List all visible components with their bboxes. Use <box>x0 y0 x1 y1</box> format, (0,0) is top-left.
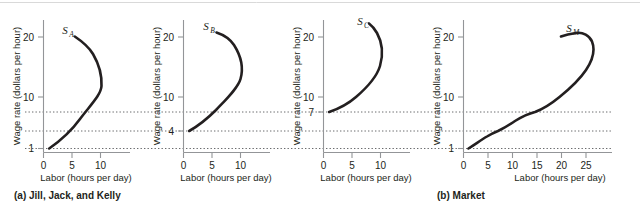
x-tick-label-kelly-10: 10 <box>375 160 387 171</box>
x-axis-title-jill: Labor (hours per day) <box>40 172 131 183</box>
x-tick-label-market-10: 10 <box>507 160 519 171</box>
y-tick-label-kelly-7: 7 <box>308 107 314 118</box>
y-tick-label-market-20: 20 <box>443 32 455 43</box>
y-axis-title-jack: Wage rate (dollars per hour) <box>151 27 162 145</box>
x-tick-label-market-20: 20 <box>556 160 568 171</box>
y-tick-label-jill-10: 10 <box>23 92 35 103</box>
x-tick-label-jill-0: 0 <box>41 160 47 171</box>
x-tick-label-market-25: 25 <box>580 160 592 171</box>
x-tick-label-market-5: 5 <box>485 160 491 171</box>
curve-label-sub-market: M <box>572 28 580 37</box>
y-tick-label-jill-1: 1 <box>28 143 34 154</box>
caption-panel-b: (b) Market <box>437 190 485 201</box>
y-tick-label-kelly-10: 10 <box>303 92 315 103</box>
x-tick-label-jill-5: 5 <box>69 160 75 171</box>
curve-label-market: S <box>566 22 572 34</box>
y-tick-label-jack-4: 4 <box>168 126 174 137</box>
x-tick-label-market-15: 15 <box>531 160 543 171</box>
x-tick-label-jack-5: 5 <box>209 160 215 171</box>
y-tick-label-jack-20: 20 <box>163 32 175 43</box>
y-tick-label-jack-10: 10 <box>163 92 175 103</box>
x-tick-label-market-0: 0 <box>461 160 467 171</box>
y-axis-title-jill: Wage rate (dollars per hour) <box>11 27 22 145</box>
x-tick-label-jack-10: 10 <box>235 160 247 171</box>
y-tick-label-kelly-20: 20 <box>303 32 315 43</box>
x-axis-title-market: Labor (hours per day) <box>514 172 605 183</box>
x-axis-title-jack: Labor (hours per day) <box>180 172 271 183</box>
x-axis-title-kelly: Labor (hours per day) <box>320 172 411 183</box>
curve-label-kelly: S <box>357 15 363 27</box>
y-tick-label-jill-20: 20 <box>23 32 35 43</box>
y-tick-label-market-1: 1 <box>448 143 454 154</box>
caption-panel-a: (a) Jill, Jack, and Kelly <box>14 190 121 201</box>
x-tick-label-jack-0: 0 <box>181 160 187 171</box>
y-tick-label-market-10: 10 <box>443 92 455 103</box>
x-tick-label-kelly-5: 5 <box>349 160 355 171</box>
y-axis-title-kelly: Wage rate (dollars per hour) <box>291 27 302 145</box>
x-tick-label-kelly-0: 0 <box>321 160 327 171</box>
curve-label-jack: S <box>203 20 209 32</box>
curve-label-jill: S <box>62 24 68 36</box>
x-tick-label-jill-10: 10 <box>95 160 107 171</box>
curve-label-sub-jill: A <box>68 30 74 39</box>
y-axis-title-market: Wage rate (dollars per hour) <box>431 27 442 145</box>
curve-label-sub-jack: B <box>210 26 215 35</box>
labor-supply-figure: 20 10 1 0 5 10 Labor (hours per day) Wag… <box>0 0 640 216</box>
